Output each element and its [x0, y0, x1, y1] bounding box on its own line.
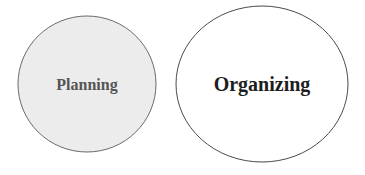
organizing-label: Organizing [214, 73, 311, 96]
diagram-canvas: Planning Organizing [0, 0, 365, 175]
node-planning: Planning [18, 16, 156, 152]
node-organizing: Organizing [176, 6, 348, 162]
planning-label: Planning [56, 76, 117, 94]
